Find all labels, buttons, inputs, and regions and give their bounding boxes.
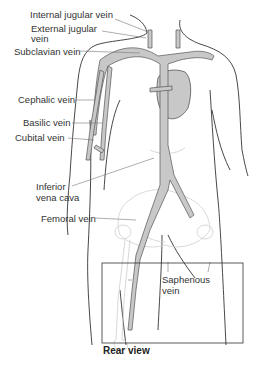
label-cubital-vein: Cubital vein (15, 133, 65, 143)
label-inferior-vena-cava: Inferior (36, 182, 66, 192)
label-saphenous-vein: Saphenous (162, 275, 210, 285)
label-internal-jugular-vein: Internal jugular vein (30, 10, 113, 20)
label-basilic-vein: Basilic vein (23, 118, 71, 128)
inset-caption: Rear view (103, 346, 150, 356)
body-outline (67, 15, 248, 345)
label-external-jugular-vein-line2: vein (31, 34, 48, 44)
label-cephalic-vein: Cephalic vein (18, 95, 75, 105)
veins (86, 30, 214, 330)
label-subclavian-vein: Subclavian vein (14, 47, 81, 57)
label-saphenous-vein-line2: vein (162, 286, 179, 296)
label-inferior-vena-cava-line2: vena cava (36, 193, 79, 203)
label-femoral-vein: Femoral vein (41, 214, 96, 224)
